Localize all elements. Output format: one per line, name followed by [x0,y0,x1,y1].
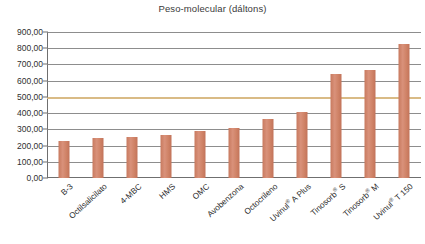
bar-slot [319,32,353,179]
plot-area [47,32,421,179]
y-tick-label: 0,00 [0,173,43,183]
bar[interactable] [399,44,410,178]
y-tick-label: 800,00 [0,43,43,53]
y-tick-label: 700,00 [0,59,43,69]
x-tick-label: Avobenzona [205,182,245,219]
y-tick-label: 200,00 [0,141,43,151]
bar[interactable] [59,141,70,178]
y-tick-label: 300,00 [0,124,43,134]
y-tick-mark [43,162,48,163]
bar[interactable] [195,131,206,178]
bar-slot [149,32,183,179]
y-tick-mark [43,178,48,179]
bar-series [47,32,421,179]
y-tick-mark [43,96,48,97]
y-tick-mark [43,64,48,65]
x-tick-label: B-3 [60,182,75,197]
y-tick-label: 900,00 [0,27,43,37]
x-axis-labels: B-3Octilsalicilato4-MBCHMSOMCAvobenzonaO… [47,180,421,242]
bar[interactable] [127,137,138,179]
bar-chart: Peso-molecular (dáltons) 900,00800,00700… [0,0,425,244]
y-tick-mark [43,47,48,48]
bar-slot [183,32,217,179]
y-tick-mark [43,145,48,146]
y-tick-mark [43,80,48,81]
bar[interactable] [331,74,342,178]
x-tick-label: HMS [157,182,177,201]
bar[interactable] [297,112,308,178]
y-tick-label: 600,00 [0,76,43,86]
y-tick-mark [43,129,48,130]
bar-slot [285,32,319,179]
bar[interactable] [365,70,376,178]
bar-slot [387,32,421,179]
y-tick-mark [43,113,48,114]
chart-title: Peso-molecular (dáltons) [0,3,425,14]
bar-slot [47,32,81,179]
bar-slot [251,32,285,179]
bar-slot [81,32,115,179]
bar-slot [353,32,387,179]
y-tick-label: 400,00 [0,108,43,118]
bar[interactable] [161,135,172,178]
bar[interactable] [93,138,104,179]
y-tick-mark [43,31,48,32]
bar[interactable] [263,119,274,178]
bar-slot [115,32,149,179]
x-tick-label: OMC [191,182,211,201]
bar-slot [217,32,251,179]
bar[interactable] [229,128,240,179]
y-tick-label: 500,00 [0,92,43,102]
x-tick-label: 4-MBC [118,182,143,206]
y-tick-label: 100,00 [0,157,43,167]
